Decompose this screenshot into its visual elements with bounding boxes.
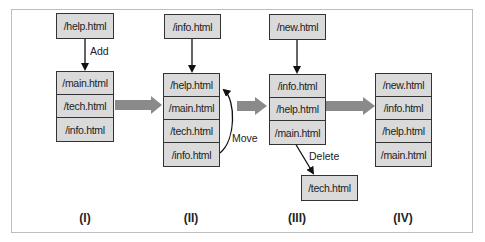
stack-row: /new.html (376, 74, 431, 97)
stack-row: /main.html (57, 72, 113, 95)
stack-row: /help.html (376, 120, 431, 143)
stack-row: /info.html (164, 143, 219, 166)
incoming-page-box: /help.html (56, 13, 114, 39)
removed-page-box: /tech.html (301, 175, 358, 201)
delete-label: Delete (309, 150, 339, 162)
stack-row: /info.html (57, 118, 113, 141)
stack-row: /info.html (270, 75, 325, 98)
stack-row: /info.html (376, 97, 431, 120)
history-stack-iv: /new.html /info.html /help.html /main.ht… (375, 73, 432, 167)
stack-row: /main.html (164, 97, 219, 120)
move-label: Move (232, 132, 258, 144)
history-stack-ii: /help.html /main.html /tech.html /info.h… (163, 73, 220, 167)
history-stack-i: /main.html /tech.html /info.html (56, 71, 114, 142)
stage-label: (III) (288, 211, 306, 225)
move-arrow (220, 90, 233, 153)
stack-row: /main.html (376, 143, 431, 166)
add-label: Add (90, 45, 109, 57)
history-stack-iii: /info.html /help.html /main.html (269, 74, 326, 145)
stack-row: /help.html (164, 74, 219, 97)
stage-label: (IV) (393, 211, 412, 225)
stack-row: /help.html (270, 98, 325, 121)
incoming-page-box: /new.html (269, 14, 326, 40)
transition-arrow-i-ii (115, 96, 162, 114)
transition-arrow-iii-iv (326, 97, 375, 115)
stack-row: /tech.html (164, 120, 219, 143)
stage-label: (II) (184, 211, 199, 225)
transition-arrow-ii-iii (237, 97, 267, 115)
incoming-page-box: /info.html (164, 14, 221, 39)
stack-row: /tech.html (57, 95, 113, 118)
stack-row: /main.html (270, 121, 325, 144)
stage-label: (I) (79, 211, 90, 225)
